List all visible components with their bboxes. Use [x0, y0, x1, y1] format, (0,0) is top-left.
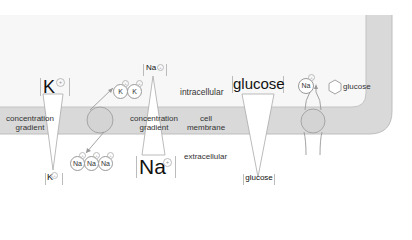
k-inside-concentration: K [40, 78, 70, 96]
symport-glucose-label: glucose [343, 82, 371, 91]
k-inside-charge: + [56, 78, 65, 87]
gradient-left-label: concentration gradient [0, 114, 60, 132]
k-ion-2-charge: + [136, 80, 143, 87]
k-inside-symbol: K [43, 77, 55, 97]
extracellular-label: extracellular [184, 152, 227, 161]
na-inside-symbol: Na [146, 63, 156, 72]
cell-membrane-label: cell membrane [186, 114, 226, 132]
na-ion-1-charge: + [79, 152, 86, 159]
na-k-pump-circle [87, 107, 113, 133]
symport-na-charge: + [308, 74, 315, 81]
glucose-outside-label: glucose [245, 173, 273, 182]
gradient-mid-line2: gradient [126, 123, 182, 132]
na-ion-3-charge: + [107, 152, 114, 159]
glucose-gradient-wedge [242, 94, 274, 177]
glucose-hexagon-icon [329, 80, 341, 94]
gradient-mid-line1: concentration [126, 114, 182, 123]
glucose-outside-concentration: glucose [243, 174, 275, 185]
intracellular-label: intracellular [180, 88, 223, 97]
glucose-inside-label: glucose [233, 75, 285, 92]
gradient-left-line2: gradient [0, 123, 60, 132]
cell-membrane-line1: cell [186, 114, 226, 123]
cell-membrane-line2: membrane [186, 123, 226, 132]
na-outside-charge: + [163, 158, 172, 167]
k-ion-1-charge: + [122, 80, 129, 87]
k-outside-charge: + [51, 172, 58, 179]
na-outside-symbol: Na [139, 155, 166, 178]
symporter-circle [301, 109, 325, 133]
na-ion-2-charge: + [93, 152, 100, 159]
gradient-mid-label: concentration gradient [126, 114, 182, 132]
glucose-inside-concentration: glucose [232, 76, 284, 93]
gradient-left-line1: concentration [0, 114, 60, 123]
na-inside-charge: + [157, 64, 164, 71]
